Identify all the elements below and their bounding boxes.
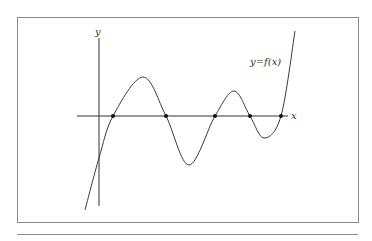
root-point (111, 114, 115, 118)
root-point (279, 114, 283, 118)
root-point (248, 114, 252, 118)
figure-frame (18, 18, 359, 223)
x-axis-label: x (291, 110, 297, 121)
root-point (213, 114, 217, 118)
function-graph-figure: y x y=f(x) (0, 0, 372, 241)
curve-label: y=f(x) (249, 56, 281, 67)
y-axis-label: y (94, 26, 101, 37)
root-point (164, 114, 168, 118)
